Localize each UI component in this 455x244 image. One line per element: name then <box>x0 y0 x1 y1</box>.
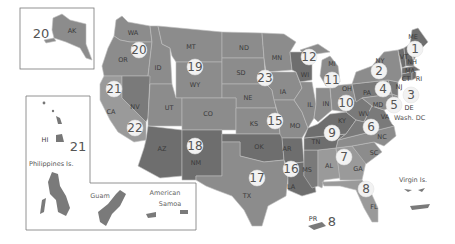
state-nm[interactable] <box>182 130 222 180</box>
state-label-az: AZ <box>158 145 167 153</box>
state-label-nm: NM <box>191 159 201 167</box>
state-label-sc: SC <box>370 149 379 157</box>
region-number: 6 <box>367 120 375 134</box>
state-label-ia: IA <box>280 88 287 96</box>
state-label-ms: MS <box>302 166 312 174</box>
state-label-co: CO <box>203 110 213 118</box>
state-label-pr: PR <box>309 215 318 223</box>
region-number: 3 <box>407 88 415 102</box>
state-label-nv: NV <box>130 103 140 111</box>
region-badge-9[interactable]: 9 <box>324 125 340 141</box>
region-number: 23 <box>257 71 272 85</box>
virgin-islands-shape-1[interactable] <box>404 189 412 192</box>
region-badge-12[interactable]: 12 <box>301 49 317 65</box>
american-samoa-label-line2: Samoa <box>159 200 181 208</box>
virgin-islands-label: Virgin Is. <box>399 176 427 184</box>
region-badge-3[interactable]: 3 <box>403 87 419 103</box>
state-label-wv: WV <box>359 110 370 118</box>
region-badge-2[interactable]: 2 <box>371 63 387 79</box>
american-samoa-shape-2 <box>180 210 188 214</box>
region-badge-21[interactable]: 21 <box>106 81 122 97</box>
state-label-ak: AK <box>68 27 77 35</box>
region-badge-16[interactable]: 16 <box>283 161 299 177</box>
region-number: 21 <box>106 82 121 96</box>
state-label-ga: GA <box>353 165 363 173</box>
region-badge-19[interactable]: 19 <box>187 59 203 75</box>
region-number: 18 <box>187 139 202 153</box>
region-number: 19 <box>187 60 202 74</box>
state-label-ks: KS <box>250 120 258 128</box>
state-label-ok: OK <box>254 143 264 151</box>
region-badge-11[interactable]: 11 <box>324 72 340 88</box>
puerto-rico-shape[interactable] <box>308 222 326 230</box>
region-number: 4 <box>379 82 387 96</box>
us-regional-map: 20 AK HI 21 Philippines Is. Guam America… <box>0 0 455 244</box>
region-badge-20[interactable]: 20 <box>131 42 147 58</box>
state-label-va: VA <box>381 113 390 121</box>
state-label-me: ME <box>408 33 418 41</box>
region-number: 20 <box>131 43 146 57</box>
state-label-mn: MN <box>272 54 283 62</box>
region-badge-10[interactable]: 10 <box>338 95 354 111</box>
region-number: 12 <box>301 50 316 64</box>
state-label-nc: NC <box>377 133 387 141</box>
state-label-ma: MA <box>405 67 416 75</box>
american-samoa-label-line1: American <box>150 189 181 197</box>
alaska-inset: 20 AK <box>20 8 94 69</box>
region-badge-17[interactable]: 17 <box>249 170 265 186</box>
state-label-ut: UT <box>165 104 174 112</box>
state-label-ar: AR <box>283 145 292 153</box>
state-label-id: ID <box>155 64 162 72</box>
state-label-sd: SD <box>236 69 245 77</box>
region-number: 5 <box>390 98 398 112</box>
state-label-tx: TX <box>242 192 252 200</box>
state-label-mt: MT <box>186 43 196 51</box>
state-label-ri: RI <box>416 75 423 83</box>
state-label-wi: WI <box>301 71 309 79</box>
guam-label: Guam <box>90 192 109 200</box>
region-badge-6[interactable]: 6 <box>363 119 379 135</box>
region-badge-1[interactable]: 1 <box>407 41 423 57</box>
state-label-tn: TN <box>311 138 321 146</box>
state-label-al: AL <box>325 162 333 170</box>
region-badge-5[interactable]: 5 <box>386 97 402 113</box>
region-number: 11 <box>324 73 339 87</box>
region-number: 16 <box>283 162 298 176</box>
region-badge-23[interactable]: 23 <box>257 70 273 86</box>
region-badge-22[interactable]: 22 <box>127 120 143 136</box>
region-number: 15 <box>267 114 282 128</box>
state-label-oh: OH <box>342 85 352 93</box>
virgin-islands-shape-2 <box>418 188 425 192</box>
state-label-or: OR <box>118 56 128 64</box>
state-label-wa: WA <box>128 29 139 37</box>
region-21-hawaii-label: 21 <box>70 139 87 154</box>
state-label-ne: NE <box>244 94 253 102</box>
philippines-label: Philippines Is. <box>29 160 73 168</box>
region-badge-18[interactable]: 18 <box>187 138 203 154</box>
region-number: 10 <box>338 96 353 110</box>
virgin-islands-shape-3 <box>410 204 430 210</box>
hawaii-island-kauai <box>43 102 46 105</box>
region-badge-4[interactable]: 4 <box>375 81 391 97</box>
region-20-alaska-label: 20 <box>33 26 50 41</box>
region-number: 9 <box>328 126 336 140</box>
state-label-il: IL <box>307 101 313 109</box>
region-badge-8[interactable]: 8 <box>358 181 374 197</box>
state-label-mi: MI <box>328 60 336 68</box>
region-badge-15[interactable]: 15 <box>267 113 283 129</box>
region-badge-7[interactable]: 7 <box>336 149 352 165</box>
region-number: 8 <box>362 182 370 196</box>
state-label-wy: WY <box>190 81 200 89</box>
state-label-ky: KY <box>338 117 346 125</box>
washington-dc-label: Wash. DC <box>394 114 426 122</box>
state-label-pa: PA <box>363 89 372 97</box>
state-label-nh: NH <box>407 58 417 66</box>
state-label-mo: MO <box>290 122 301 130</box>
state-label-nj: NJ <box>396 83 403 91</box>
hawaii-island-oahu <box>52 110 54 112</box>
state-label-ca: CA <box>107 108 117 116</box>
state-label-ct: CT <box>402 75 411 83</box>
state-label-hi: HI <box>42 136 49 144</box>
state-label-in: IN <box>323 100 330 108</box>
state-label-md: MD <box>373 101 384 109</box>
